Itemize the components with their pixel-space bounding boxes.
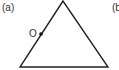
triangle-diagram [0, 0, 119, 70]
point-o-dot [39, 32, 43, 36]
point-o-label: O [29, 29, 37, 39]
